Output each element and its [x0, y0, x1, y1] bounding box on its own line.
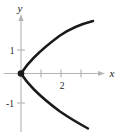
plot-canvas: y x 1 -1 2	[0, 0, 121, 136]
curve-upper-branch	[21, 21, 93, 74]
parabola-figure: y x 1 -1 2	[0, 0, 121, 136]
y-axis-label: y	[17, 2, 23, 14]
x-axis-label: x	[109, 67, 115, 79]
y-tick-label-minus-1: -1	[6, 99, 14, 109]
y-tick-label-1: 1	[10, 46, 15, 56]
y-axis-arrow-icon	[18, 14, 23, 21]
x-tick-label-2: 2	[60, 81, 65, 91]
curve-lower-branch	[21, 74, 88, 129]
origin-vertex-dot	[18, 70, 25, 77]
x-axis-arrow-icon	[98, 71, 105, 76]
